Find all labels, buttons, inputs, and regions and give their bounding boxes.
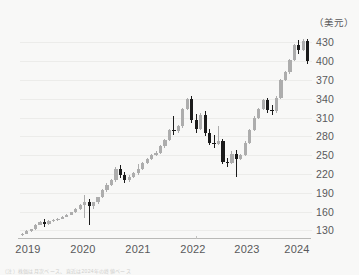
- x-axis-tick-label: 2022: [171, 243, 215, 255]
- candle-body: [74, 209, 77, 213]
- candle-body: [137, 169, 140, 173]
- candlestick: [217, 33, 220, 238]
- candlestick: [262, 33, 265, 238]
- candle-body: [47, 221, 50, 224]
- candle-body: [146, 159, 149, 163]
- candlestick: [137, 33, 140, 238]
- candle-body: [34, 225, 37, 229]
- chart-caption: （注）株価は月次ベース、直近は2024年の終値ベース: [2, 267, 252, 275]
- candlestick: [123, 33, 126, 238]
- candle-body: [186, 99, 189, 109]
- candle-body: [221, 141, 224, 161]
- candle-body: [110, 180, 113, 184]
- y-axis-tick-label: 370: [316, 75, 356, 85]
- candlestick: [79, 33, 82, 238]
- candlestick: [83, 33, 86, 238]
- candle-body: [21, 234, 24, 235]
- candlestick: [47, 33, 50, 238]
- x-axis-tick-label: 2021: [116, 243, 160, 255]
- candle-body: [204, 115, 207, 133]
- candlestick: [266, 33, 269, 238]
- candlestick: [221, 33, 224, 238]
- candlestick: [110, 33, 113, 238]
- candle-body: [244, 143, 247, 156]
- y-axis-tick-label: 310: [316, 113, 356, 123]
- candlestick: [168, 33, 171, 238]
- candle-body: [293, 45, 296, 60]
- candle-body: [159, 146, 162, 152]
- candle-body: [172, 130, 175, 131]
- candle-body: [141, 163, 144, 169]
- candle-body: [239, 155, 242, 159]
- candlestick: [172, 33, 175, 238]
- candle-body: [257, 109, 260, 118]
- y-axis-tick-label: 130: [316, 225, 356, 235]
- candle-body: [119, 169, 122, 175]
- candle-body: [88, 202, 91, 206]
- candle-body: [114, 169, 117, 180]
- y-axis-tick-label: 220: [316, 169, 356, 179]
- candle-body: [279, 80, 282, 98]
- candlestick: [208, 33, 211, 238]
- x-axis-line: [18, 238, 311, 239]
- candle-body: [306, 41, 309, 61]
- candle-body: [253, 118, 256, 131]
- candlestick: [293, 33, 296, 238]
- candlestick: [270, 33, 273, 238]
- candle-body: [25, 231, 28, 234]
- candle-body: [195, 120, 198, 129]
- candle-body: [128, 177, 131, 181]
- candle-body: [79, 205, 82, 209]
- candlestick: [132, 33, 135, 238]
- x-axis-tick-label: 2019: [6, 243, 50, 255]
- candlestick: [128, 33, 131, 238]
- candle-body: [163, 140, 166, 146]
- candle-body: [275, 98, 278, 112]
- x-axis-tick-label: 2020: [61, 243, 105, 255]
- candlestick: [239, 33, 242, 238]
- candlestick: [230, 33, 233, 238]
- candle-body: [52, 220, 55, 221]
- stock-candlestick-chart: （美元） 430400370340310280250220190160130 2…: [0, 0, 359, 275]
- y-axis-tick-label: 160: [316, 207, 356, 217]
- candlestick: [212, 33, 215, 238]
- candlestick: [52, 33, 55, 238]
- candlestick: [34, 33, 37, 238]
- candle-body: [56, 219, 59, 220]
- candlestick: [288, 33, 291, 238]
- candlestick: [21, 33, 24, 238]
- candle-body: [61, 217, 64, 219]
- candle-body: [30, 229, 33, 231]
- candle-body: [38, 222, 41, 225]
- candlestick: [43, 33, 46, 238]
- candle-body: [199, 115, 202, 129]
- candle-body: [96, 197, 99, 202]
- candlestick: [146, 33, 149, 238]
- candlestick: [159, 33, 162, 238]
- candlestick: [92, 33, 95, 238]
- candle-body: [262, 100, 265, 109]
- candle-body: [65, 215, 68, 217]
- candle-body: [284, 72, 287, 80]
- candle-body: [226, 162, 229, 163]
- candlestick: [150, 33, 153, 238]
- candle-body: [208, 133, 211, 143]
- candlestick: [61, 33, 64, 238]
- y-axis-unit-label: （美元）: [314, 15, 354, 29]
- candle-body: [230, 154, 233, 163]
- candle-wick: [84, 195, 85, 218]
- candlestick: [275, 33, 278, 238]
- y-axis-tick-label: 400: [316, 56, 356, 66]
- y-axis-tick-label: 280: [316, 131, 356, 141]
- candle-body: [288, 60, 291, 73]
- candle-body: [105, 185, 108, 191]
- candle-body: [168, 130, 171, 140]
- candlestick: [226, 33, 229, 238]
- candlestick: [284, 33, 287, 238]
- candle-body: [92, 202, 95, 206]
- candle-body: [177, 126, 180, 131]
- candlestick: [105, 33, 108, 238]
- candlestick: [154, 33, 157, 238]
- candlestick: [56, 33, 59, 238]
- candle-body: [266, 100, 269, 110]
